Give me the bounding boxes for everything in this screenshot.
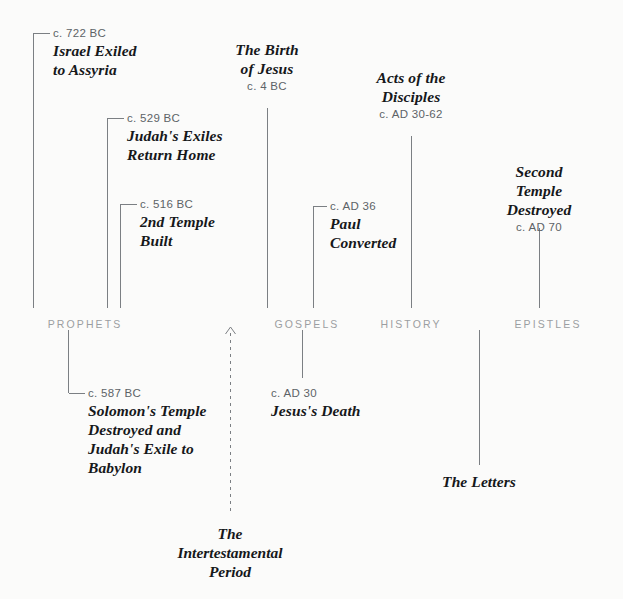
event-date-acts-of-the-disciples: c. AD 30-62 [376, 106, 445, 122]
event-birth-of-jesus: The Birth of Jesusc. 4 BC [235, 40, 298, 94]
event-name-second-temple-destroyed: Second Temple Destroyed [497, 162, 581, 219]
event-acts-of-the-disciples: Acts of the Disciplesc. AD 30-62 [376, 68, 445, 122]
event-date-israel-exiled: c. 722 BC [53, 25, 137, 41]
event-date-second-temple-destroyed: c. AD 70 [497, 219, 581, 235]
event-name-birth-of-jesus: The Birth of Jesus [235, 40, 298, 78]
event-date-paul-converted: c. AD 36 [330, 198, 396, 214]
event-solomons-temple-destroyed: c. 587 BCSolomon's Temple Destroyed and … [88, 385, 207, 477]
event-name-israel-exiled: Israel Exiled to Assyria [53, 41, 137, 79]
event-date-solomons-temple-destroyed: c. 587 BC [88, 385, 207, 401]
connector-lines [0, 0, 623, 599]
event-date-2nd-temple-built: c. 516 BC [140, 196, 215, 212]
timeline-diagram: c. 722 BCIsrael Exiled to Assyriac. 529 … [0, 0, 623, 599]
event-second-temple-destroyed: Second Temple Destroyedc. AD 70 [497, 162, 581, 235]
event-name-the-letters: The Letters [442, 472, 516, 491]
section-label-gospels: GOSPELS [275, 318, 340, 330]
event-name-judahs-exiles-return: Judah's Exiles Return Home [127, 126, 223, 164]
section-label-history: HISTORY [381, 318, 442, 330]
event-israel-exiled: c. 722 BCIsrael Exiled to Assyria [53, 25, 137, 79]
section-label-prophets: PROPHETS [48, 318, 123, 330]
intertestamental-period-label: The Intertestamental Period [177, 524, 282, 581]
event-name-solomons-temple-destroyed: Solomon's Temple Destroyed and Judah's E… [88, 401, 207, 477]
event-date-birth-of-jesus: c. 4 BC [235, 78, 298, 94]
event-the-letters: The Letters [442, 472, 516, 491]
event-date-judahs-exiles-return: c. 529 BC [127, 110, 223, 126]
event-date-jesuss-death: c. AD 30 [271, 385, 361, 401]
event-name-paul-converted: Paul Converted [330, 214, 396, 252]
event-jesuss-death: c. AD 30Jesus's Death [271, 385, 361, 420]
event-name-2nd-temple-built: 2nd Temple Built [140, 212, 215, 250]
event-name-acts-of-the-disciples: Acts of the Disciples [376, 68, 445, 106]
event-name-jesuss-death: Jesus's Death [271, 401, 361, 420]
intertestamental-arrowhead-icon [226, 327, 236, 334]
section-label-epistles: EPISTLES [515, 318, 582, 330]
event-judahs-exiles-return: c. 529 BCJudah's Exiles Return Home [127, 110, 223, 164]
event-2nd-temple-built: c. 516 BC2nd Temple Built [140, 196, 215, 250]
event-paul-converted: c. AD 36Paul Converted [330, 198, 396, 252]
